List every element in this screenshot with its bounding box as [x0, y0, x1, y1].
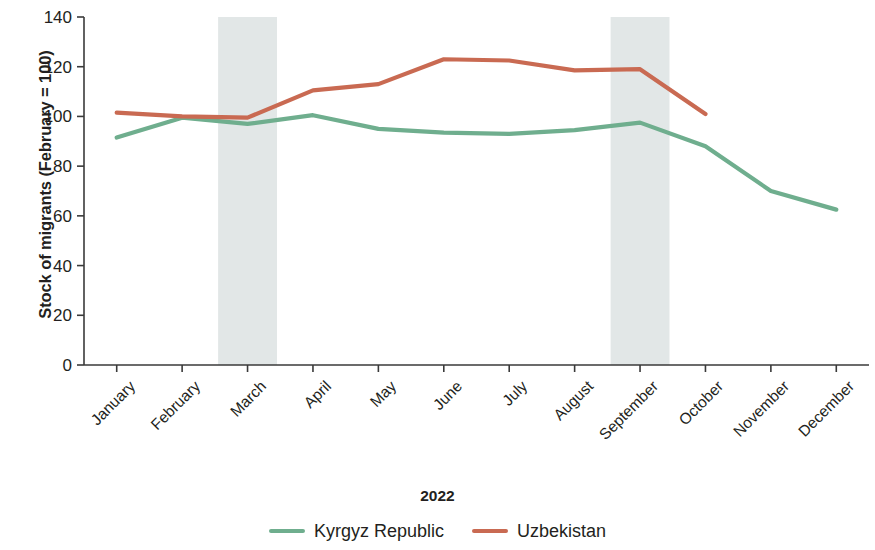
shaded-band [218, 17, 277, 365]
legend-label: Uzbekistan [517, 522, 606, 540]
chart-canvas [0, 0, 875, 550]
legend-item[interactable]: Uzbekistan [472, 522, 606, 540]
x-axis-title: 2022 [0, 487, 875, 505]
legend-color-swatch [269, 529, 305, 534]
migration-line-chart: Stock of migrants (February = 100) 02040… [0, 0, 875, 550]
legend-item[interactable]: Kyrgyz Republic [269, 522, 444, 540]
chart-legend: Kyrgyz RepublicUzbekistan [0, 522, 875, 540]
legend-label: Kyrgyz Republic [314, 522, 444, 540]
legend-color-swatch [472, 529, 508, 534]
